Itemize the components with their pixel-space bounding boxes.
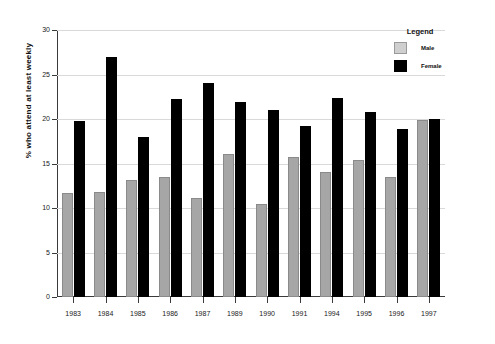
bar-male-1990 [256,204,267,297]
bar-female-1987 [203,83,214,297]
x-tick-mark [429,297,430,303]
x-tick-mark [300,297,301,303]
legend-label-female: Female [421,63,442,69]
x-tick-mark [106,297,107,303]
x-tick-label-1986: 1986 [153,309,187,318]
bar-male-1997 [417,120,428,297]
bar-female-1996 [397,129,408,297]
x-tick-mark [397,297,398,303]
x-tick-label-1990: 1990 [250,309,284,318]
bar-female-1994 [332,98,343,297]
x-tick-mark [332,297,333,303]
x-tick-mark [235,297,236,303]
legend-item-female: Female [372,60,484,72]
x-tick-mark [170,297,171,303]
legend-swatch-male [394,42,407,54]
y-tick-label-wrap: 20 [22,115,50,123]
bar-male-1989 [223,154,234,297]
y-tick-label-wrap: 30 [22,26,50,34]
x-tick-label-1994: 1994 [315,309,349,318]
x-tick-label-1995: 1995 [347,309,381,318]
legend-swatch-female [394,60,407,72]
x-tick-label-1996: 1996 [380,309,414,318]
legend-label-male: Male [421,45,434,51]
bar-female-1991 [300,126,311,297]
y-tick-label: 20 [28,115,50,123]
bar-female-1997 [429,119,440,297]
x-tick-mark [364,297,365,303]
y-tick-label: 25 [28,71,50,79]
x-tick-label-1983: 1983 [56,309,90,318]
y-tick-label: 10 [28,204,50,212]
y-tick-label-wrap: 25 [22,71,50,79]
bar-male-1995 [353,160,364,297]
x-tick-mark [73,297,74,303]
bar-female-1989 [235,102,246,297]
x-tick-mark [203,297,204,303]
chart-screenshot: % who attend at least weekly 05101520253… [0,0,495,344]
y-tick-label: 15 [28,160,50,168]
x-tick-label-1997: 1997 [412,309,446,318]
bar-male-1983 [62,193,73,297]
bar-female-1983 [74,121,85,297]
x-tick-label-1991: 1991 [283,309,317,318]
y-tick-label-wrap: 10 [22,204,50,212]
y-tick-label-wrap: 15 [22,160,50,168]
bar-female-1985 [138,137,149,297]
legend-title: Legend [378,27,462,36]
bar-female-1995 [365,112,376,297]
bar-male-1996 [385,177,396,297]
legend: Legend Male Female [372,27,484,78]
bar-female-1984 [106,57,117,297]
y-tick-label-wrap: 0 [22,293,50,301]
y-tick-label: 5 [28,249,50,257]
bar-male-1987 [191,198,202,297]
x-tick-label-1985: 1985 [121,309,155,318]
bar-male-1986 [159,177,170,297]
x-tick-mark [267,297,268,303]
bar-female-1990 [268,110,279,297]
x-tick-label-1989: 1989 [218,309,252,318]
x-tick-mark [138,297,139,303]
x-tick-label-1984: 1984 [89,309,123,318]
y-tick-label-wrap: 5 [22,249,50,257]
bar-male-1984 [94,192,105,297]
bar-male-1994 [320,172,331,297]
bar-female-1986 [171,99,182,297]
y-tick-label: 0 [28,293,50,301]
y-tick-mark [52,297,57,298]
y-tick-label: 30 [28,26,50,34]
legend-item-male: Male [372,42,484,54]
x-tick-label-1987: 1987 [186,309,220,318]
bar-male-1991 [288,157,299,297]
bar-male-1985 [126,180,137,297]
